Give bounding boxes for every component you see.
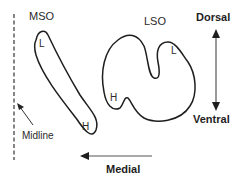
lso-high-frequency-label: H — [110, 93, 117, 103]
medial-arrow — [80, 152, 152, 160]
mso-low-frequency-label: L — [39, 39, 45, 49]
auditory-brainstem-diagram: MSO L H LSO L H Midline Dorsal Ventral M… — [0, 0, 244, 184]
midline-label: Midline — [22, 131, 54, 141]
mso-label: MSO — [29, 11, 54, 22]
lso-label: LSO — [144, 16, 166, 27]
diagram-canvas — [0, 0, 244, 184]
lso-low-frequency-label: L — [171, 46, 177, 56]
ventral-label: Ventral — [193, 114, 230, 125]
dorsal-label: Dorsal — [196, 12, 230, 23]
medial-label: Medial — [106, 164, 140, 175]
lso-outline — [103, 35, 196, 121]
mso-high-frequency-label: H — [82, 122, 89, 132]
midline-pointer-arrow — [17, 103, 33, 125]
dorsal-ventral-arrow — [212, 29, 220, 111]
